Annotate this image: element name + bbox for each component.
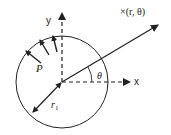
pressure-arrow-icon — [53, 36, 57, 52]
x-axis-label: x — [134, 76, 139, 87]
polar-hole-diagram: y x ×(r, θ) P θ r1 — [0, 0, 171, 135]
point-label: ×(r, θ) — [120, 6, 145, 18]
pressure-label: P — [35, 62, 43, 74]
pressure-arrows — [26, 36, 57, 63]
pressure-arrow-icon — [40, 40, 49, 55]
angle-label: θ — [97, 70, 102, 81]
radial-line — [62, 25, 158, 82]
angle-arc-icon — [88, 67, 92, 82]
radius-label: r1 — [51, 99, 59, 112]
radius-label-subscript: 1 — [55, 104, 59, 112]
y-axis-label: y — [46, 15, 51, 26]
